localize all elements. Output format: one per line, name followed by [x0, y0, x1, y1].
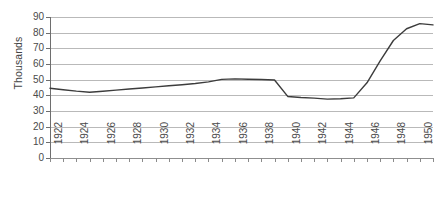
line-chart: Thousands 9080706050403020100 1922192419…: [0, 0, 435, 213]
y-tick-mark-80: [46, 33, 50, 34]
y-tick-mark-30: [46, 111, 50, 112]
y-tick-mark-50: [46, 80, 50, 81]
x-tick-mark-1929: [142, 158, 143, 162]
x-tick-mark-1949: [407, 158, 408, 162]
x-tick-mark-1926: [103, 158, 104, 162]
y-tick-mark-40: [46, 95, 50, 96]
x-tick-mark-1930: [156, 158, 157, 162]
x-tick-mark-1923: [63, 158, 64, 162]
series-line-value: [50, 24, 433, 100]
x-tick-mark-1948: [393, 158, 394, 162]
x-tick-mark-1937: [248, 158, 249, 162]
x-tick-mark-1931: [169, 158, 170, 162]
x-tick-mark-1925: [90, 158, 91, 162]
x-tick-mark-1924: [76, 158, 77, 162]
data-series-layer: [0, 0, 435, 213]
x-tick-mark-1944: [341, 158, 342, 162]
x-tick-mark-1945: [354, 158, 355, 162]
x-tick-mark-1932: [182, 158, 183, 162]
y-tick-mark-60: [46, 64, 50, 65]
x-tick-mark-1946: [367, 158, 368, 162]
x-tick-mark-1935: [222, 158, 223, 162]
x-tick-mark-1934: [208, 158, 209, 162]
x-tick-mark-1940: [288, 158, 289, 162]
y-tick-mark-70: [46, 48, 50, 49]
y-tick-mark-90: [46, 17, 50, 18]
y-tick-mark-10: [46, 142, 50, 143]
x-tick-mark-1941: [301, 158, 302, 162]
x-tick-mark-1939: [275, 158, 276, 162]
x-tick-mark-1950: [420, 158, 421, 162]
x-tick-mark-1933: [195, 158, 196, 162]
x-tick-mark-1943: [327, 158, 328, 162]
y-tick-mark-20: [46, 127, 50, 128]
x-tick-mark-1936: [235, 158, 236, 162]
x-tick-mark-1922: [50, 158, 51, 162]
x-tick-mark-1928: [129, 158, 130, 162]
x-tick-mark-1942: [314, 158, 315, 162]
x-tick-mark-1947: [380, 158, 381, 162]
x-tick-mark-1938: [261, 158, 262, 162]
x-tick-mark-1951: [433, 158, 434, 162]
x-tick-mark-1927: [116, 158, 117, 162]
